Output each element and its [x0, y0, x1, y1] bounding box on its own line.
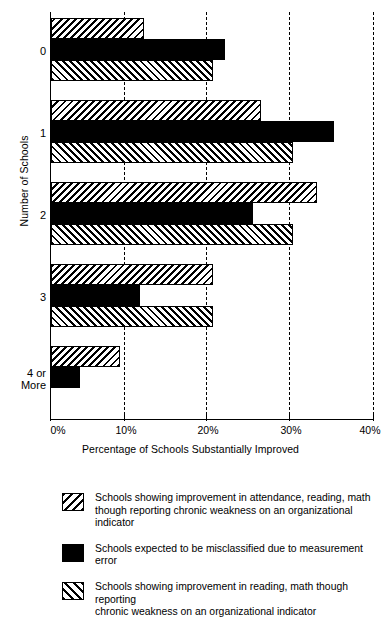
legend-label-line2: chronic weakness on an organizational in…: [95, 606, 373, 617]
bar-group1-series3: [51, 142, 293, 163]
bar-group2-series1: [51, 182, 317, 203]
legend-label-misclassified: Schools expected to be misclassified due…: [95, 543, 373, 568]
x-tick-label-10: 10%: [115, 424, 136, 436]
legend-swatch-hatch-forwardslash-icon: [62, 582, 84, 600]
bar-group1-series1: [51, 100, 261, 121]
legend-label-attendance-reading-math: Schools showing improvement in attendanc…: [95, 492, 373, 530]
x-tick-label-30: 30%: [280, 424, 301, 436]
bar-group2-series3: [51, 224, 293, 245]
x-tick-mark-20: [206, 414, 207, 421]
legend-label-line1: Schools showing improvement in attendanc…: [95, 492, 373, 505]
legend-item-attendance-reading-math: Schools showing improvement in attendanc…: [0, 492, 381, 530]
bar-group0-series2: [51, 39, 225, 60]
bar-group4-series2: [51, 367, 80, 388]
bar-group0-series3: [51, 60, 213, 81]
legend-swatch-hatch-backslash-icon: [62, 493, 84, 511]
bar-chart-figure: Number of Schools 0 1 2 3 4 or More: [0, 0, 381, 617]
bar-group0-series1: [51, 18, 144, 39]
bar-group3-series2: [51, 285, 140, 306]
x-tick-label-0: 0%: [50, 424, 65, 436]
y-axis-line: [50, 12, 51, 420]
bar-group4-series1: [51, 346, 120, 367]
x-axis-title: Percentage of Schools Substantially Impr…: [0, 443, 381, 455]
bar-group3-series3: [51, 306, 213, 327]
legend-item-reading-math: Schools showing improvement in reading, …: [0, 581, 381, 617]
x-tick-mark-10: [124, 414, 125, 421]
legend-label-line2: though reporting chronic weakness on an …: [95, 505, 373, 530]
x-tick-mark-30: [289, 414, 290, 421]
y-tick-label-4-line2: More: [2, 380, 46, 392]
x-tick-label-40: 40%: [359, 424, 380, 436]
legend-item-misclassified: Schools expected to be misclassified due…: [0, 543, 381, 568]
legend-label-line1: Schools showing improvement in reading, …: [95, 581, 373, 606]
x-tick-label-20: 20%: [197, 424, 218, 436]
x-tick-mark-40: [373, 414, 374, 421]
plot-area: Number of Schools 0 1 2 3 4 or More: [0, 0, 381, 450]
y-tick-label-2: 2: [2, 210, 46, 222]
gridline-30pct: [289, 12, 290, 420]
bar-group1-series2: [51, 121, 334, 142]
gridline-40pct: [373, 12, 374, 420]
chart-legend: Schools showing improvement in attendanc…: [0, 492, 381, 617]
x-tick-mark-0: [50, 414, 51, 421]
y-tick-label-4-line1: 4 or: [2, 368, 46, 380]
x-axis-line: [50, 419, 374, 420]
y-tick-labels: 0 1 2 3 4 or More: [0, 0, 46, 420]
bar-group2-series2: [51, 203, 253, 224]
legend-swatch-solid-black-icon: [62, 544, 84, 562]
legend-label-reading-math: Schools showing improvement in reading, …: [95, 581, 373, 617]
legend-label-line1: Schools expected to be misclassified due…: [95, 543, 373, 568]
y-tick-label-1: 1: [2, 128, 46, 140]
y-tick-label-3: 3: [2, 292, 46, 304]
y-tick-label-0: 0: [2, 46, 46, 58]
bar-group3-series1: [51, 264, 213, 285]
